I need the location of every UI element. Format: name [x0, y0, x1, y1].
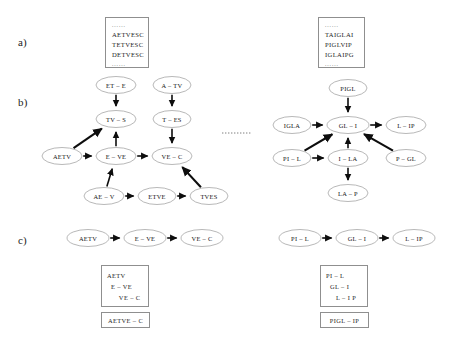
node-label: AETV — [79, 235, 97, 242]
node-label: IGLA — [284, 122, 301, 129]
right-assembly-result: PIGL – IP — [320, 312, 369, 328]
right-overlap-stack: PI – L GL – I L – I P — [320, 265, 368, 307]
node-label: LA – P — [338, 190, 358, 197]
graph-node[interactable]: VE – C — [181, 230, 223, 247]
node-label: VE – C — [192, 235, 213, 242]
node-label: ETVE — [148, 193, 166, 200]
graph-node[interactable]: GL – I — [336, 230, 378, 247]
node-label: AE – V — [93, 193, 114, 200]
panel-label-b: b) — [18, 96, 28, 108]
graph-node[interactable]: PI – L — [273, 150, 311, 167]
node-label: T – ES — [162, 116, 182, 123]
left-overlap-stack: AETV E – VE VE – C — [101, 265, 149, 307]
graph-node[interactable]: GL – I — [327, 117, 369, 134]
node-label: AETV — [53, 153, 71, 160]
graph-layer: ET – EA – TVTV – ST – ESAETVE – VEVE – C… — [0, 0, 461, 340]
graph-edge — [305, 134, 333, 150]
graph-node[interactable]: A – TV — [153, 77, 191, 94]
node-label: ET – E — [106, 82, 126, 89]
node-label: E – VE — [135, 235, 156, 242]
graph-node[interactable]: ETVE — [138, 188, 176, 205]
graph-node[interactable]: AETV — [42, 148, 82, 165]
graph-node[interactable]: L – IP — [386, 117, 426, 134]
ellipsis-top: ...... — [112, 21, 148, 30]
graph-edge — [74, 129, 102, 148]
graph-node[interactable]: LA – P — [328, 185, 368, 202]
overlap-line: AETV — [107, 270, 148, 281]
node-label: E – VE — [106, 153, 127, 160]
result-text: AETVE – C — [108, 317, 143, 324]
sequence-line: PIGLVIP — [325, 40, 364, 50]
node-label: L – IP — [397, 122, 415, 129]
panel-label-c: c) — [18, 234, 27, 246]
graph-node[interactable]: IGLA — [273, 117, 311, 134]
node-label: A – TV — [162, 82, 183, 89]
node-label: TV – S — [106, 116, 126, 123]
graph-node[interactable]: P – GL — [386, 150, 426, 167]
node-label: VE – C — [162, 153, 183, 160]
result-text: PIGL – IP — [330, 317, 360, 324]
ellipsis-top: ...... — [325, 21, 364, 30]
node-label: P – GL — [396, 155, 416, 162]
node-label: PIGL — [340, 85, 355, 92]
graph-edge — [107, 169, 112, 187]
graph-node[interactable]: ET – E — [96, 77, 136, 94]
graph-node[interactable]: TVES — [190, 188, 228, 205]
sequence-line: TETVESC — [112, 40, 148, 50]
graph-node[interactable]: E – VE — [124, 230, 166, 247]
graph-edge — [182, 167, 201, 187]
graph-node[interactable]: PIGL — [329, 80, 367, 97]
graph-node[interactable]: I – LA — [328, 150, 368, 167]
panel-label-a: a) — [18, 36, 27, 48]
node-label: PI – L — [291, 235, 309, 242]
nodes-layer: ET – EA – TVTV – ST – ESAETVE – VEVE – C… — [42, 77, 435, 247]
overlap-line: GL – I — [326, 281, 367, 292]
node-label: PI – L — [283, 155, 301, 162]
left-sequence-box: ......AETVESCTETVESCDETVESC...... — [105, 17, 149, 68]
node-label: TVES — [200, 193, 217, 200]
node-label: I – LA — [339, 155, 358, 162]
node-label: GL – I — [348, 235, 367, 242]
sequence-line: TAIGLAI — [325, 30, 364, 40]
graph-node[interactable]: PI – L — [279, 230, 321, 247]
overlap-line: PI – L — [326, 270, 367, 281]
overlap-line: VE – C — [107, 292, 148, 303]
ellipsis-bottom: ...... — [112, 60, 148, 69]
figure-root: ET – EA – TVTV – ST – ESAETVE – VEVE – C… — [0, 0, 461, 340]
graph-node[interactable]: AE – V — [84, 188, 124, 205]
sequence-line: DETVESC — [112, 50, 148, 60]
sequence-line: IGLAIPG — [325, 50, 364, 60]
graph-node[interactable]: AETV — [67, 230, 109, 247]
ellipsis-bottom: ...... — [325, 60, 364, 69]
sequence-line: AETVESC — [112, 30, 148, 40]
graph-node[interactable]: VE – C — [152, 148, 192, 165]
graph-node[interactable]: E – VE — [96, 148, 136, 165]
graph-node[interactable]: TV – S — [96, 111, 136, 128]
graph-node[interactable]: T – ES — [153, 111, 191, 128]
right-sequence-box: ......TAIGLAIPIGLVIPIGLAIPG...... — [318, 17, 365, 68]
graph-edge — [364, 134, 393, 150]
node-label: GL – I — [339, 122, 358, 129]
graph-node[interactable]: L – IP — [393, 230, 435, 247]
overlap-line: L – I P — [326, 292, 367, 303]
left-assembly-result: AETVE – C — [101, 312, 150, 328]
node-label: L – IP — [405, 235, 423, 242]
overlap-line: E – VE — [107, 281, 148, 292]
